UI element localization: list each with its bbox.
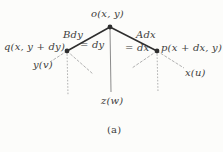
terminal-label-center: z(w) [101,96,123,106]
b-diagram-figure: o(x, y) q(x, y + dy) p(x + dx, y) Bdy = … [0,0,223,152]
node-o-label: o(x, y) [91,9,124,19]
stem-o-z [110,29,111,92]
terminal-label-left: y(v) [33,60,53,70]
terminal-label-right: x(u) [185,68,206,78]
edge-label-right-value: = dx [125,43,149,53]
node-q-dot [65,49,70,54]
node-p-label: p(x + dx, y) [161,43,222,53]
edge-label-left-value: = dy [80,40,104,50]
node-p-dot [155,49,160,54]
stem-p-right [157,51,184,68]
edge-label-right-weight: Adx [136,30,156,40]
stem-p-left [132,51,157,68]
node-o-dot [108,25,113,30]
stem-q-down [67,51,68,95]
stem-p-down [157,51,158,92]
node-q-label: q(x, y + dy) [4,42,65,52]
stem-q-right [67,51,93,74]
figure-caption: (a) [107,125,121,135]
